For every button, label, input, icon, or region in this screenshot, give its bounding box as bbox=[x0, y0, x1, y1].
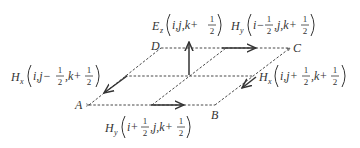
hx-right-paren-right bbox=[342, 65, 345, 87]
hx-left-frac1-den: 2 bbox=[58, 77, 63, 87]
edge-ad bbox=[89, 48, 161, 105]
ez-symbol: E bbox=[151, 19, 160, 33]
yee-cell-diagram: D C A B E z i,j,k+ 1 2 H y i− 1 2 ,j,k+ … bbox=[0, 0, 360, 148]
hy-top-args-mid: ,j,k+ bbox=[274, 18, 297, 32]
hx-left-frac1-num: 1 bbox=[58, 65, 63, 75]
hx-left-label: H x i,j− 1 2 ,k+ 1 2 bbox=[10, 65, 99, 87]
hy-top-args-pre: i− bbox=[253, 18, 264, 32]
vertex-c-label: C bbox=[293, 41, 302, 55]
hy-top-frac1-den: 2 bbox=[267, 26, 272, 36]
hx-left-paren-right bbox=[96, 65, 99, 87]
hx-right-subscript: x bbox=[267, 77, 272, 86]
hy-top-paren-right bbox=[311, 14, 314, 36]
hy-bottom-frac2-den: 2 bbox=[179, 128, 184, 138]
hx-right-frac2-num: 1 bbox=[333, 65, 338, 75]
edge-bc bbox=[215, 48, 290, 105]
hy-top-frac2-den: 2 bbox=[303, 26, 308, 36]
hx-right-frac1-num: 1 bbox=[304, 65, 309, 75]
hx-right-args-mid: ,k+ bbox=[311, 69, 327, 83]
hx-left-frac2-den: 2 bbox=[87, 77, 92, 87]
ez-args: i,j,k+ bbox=[172, 18, 198, 32]
hy-bottom-frac2-num: 1 bbox=[179, 116, 184, 126]
hy-top-paren-left bbox=[248, 14, 251, 36]
hx-left-frac2-num: 1 bbox=[87, 65, 92, 75]
hy-bottom-label: H y i+ 1 2 ,j,k+ 1 2 bbox=[104, 116, 190, 138]
hx-left-args-pre: i,j− bbox=[33, 69, 51, 83]
hy-top-subscript: y bbox=[239, 26, 244, 35]
hy-bottom-frac1-den: 2 bbox=[143, 128, 148, 138]
hx-right-frac1-den: 2 bbox=[304, 77, 309, 87]
hy-top-frac1-num: 1 bbox=[267, 14, 272, 24]
ez-frac-num: 1 bbox=[210, 14, 215, 24]
vertex-a-label: A bbox=[74, 98, 83, 112]
hy-top-frac2-num: 1 bbox=[303, 14, 308, 24]
vertex-b-label: B bbox=[211, 108, 219, 122]
ez-paren-left bbox=[167, 14, 170, 36]
hx-right-label: H x i,j+ 1 2 ,k+ 1 2 bbox=[258, 65, 345, 87]
ez-frac-den: 2 bbox=[210, 26, 215, 36]
hx-right-frac2-den: 2 bbox=[333, 77, 338, 87]
hy-top-label: H y i− 1 2 ,j,k+ 1 2 bbox=[230, 14, 314, 36]
hy-bottom-subscript: y bbox=[113, 128, 118, 137]
hx-right-paren-left bbox=[275, 65, 278, 87]
ez-subscript: z bbox=[159, 26, 164, 35]
hy-bottom-paren-right bbox=[187, 116, 190, 138]
hx-left-args-mid: ,k+ bbox=[65, 69, 81, 83]
hy-bottom-frac1-num: 1 bbox=[143, 116, 148, 126]
hx-left-paren-left bbox=[28, 65, 31, 87]
hx-left-arrow bbox=[104, 76, 127, 93]
vertex-d-label: D bbox=[150, 39, 160, 53]
hx-left-subscript: x bbox=[19, 77, 24, 86]
hy-bottom-args-pre: i+ bbox=[127, 120, 138, 134]
hy-bottom-args-mid: ,j,k+ bbox=[150, 120, 173, 134]
ez-label: E z i,j,k+ 1 2 bbox=[151, 14, 221, 36]
field-arrows bbox=[104, 42, 256, 105]
hx-right-args-pre: i,j+ bbox=[280, 69, 298, 83]
ez-paren-right bbox=[218, 14, 221, 36]
hy-bottom-paren-left bbox=[122, 116, 125, 138]
